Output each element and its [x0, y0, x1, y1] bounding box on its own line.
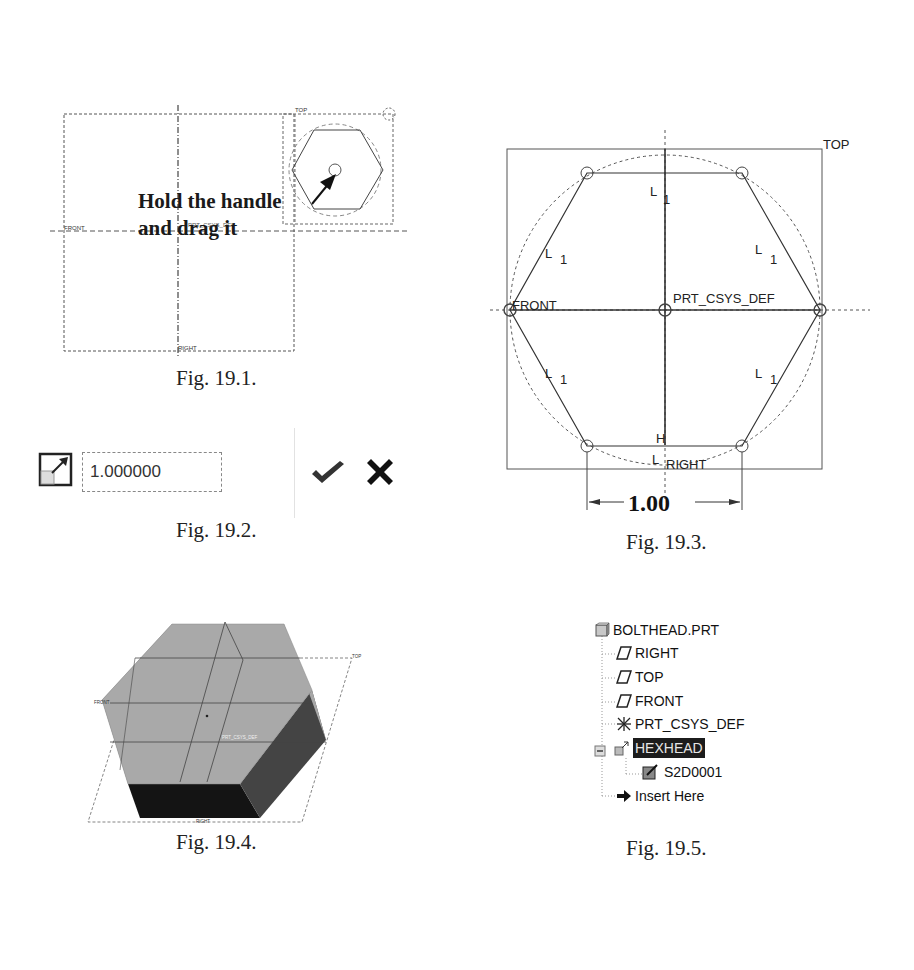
toolbar-separator: [294, 428, 295, 518]
label-top: TOP: [295, 107, 307, 113]
arrow-right-icon: [616, 788, 632, 804]
dimension-value[interactable]: 1.00: [628, 490, 670, 516]
constraint-L-ll: L: [545, 366, 552, 381]
hexhead-3d-model: TOP FRONT RIGHT PRT_CSYS_DEF: [80, 610, 380, 830]
caption-fig-19-3: Fig. 19.3.: [626, 530, 707, 555]
tree-item-s2d0001[interactable]: S2D0001: [642, 762, 722, 782]
constraint-L-ul: L: [545, 246, 552, 261]
tree-item-front[interactable]: FRONT: [616, 691, 683, 711]
datum-plane-icon: [616, 693, 632, 709]
tree-item-label: S2D0001: [664, 762, 722, 782]
callout-line2: and drag it: [138, 216, 237, 240]
tree-item-top[interactable]: TOP: [616, 667, 664, 687]
constraint-L-bottom: L: [652, 452, 659, 467]
label-front: FRONT: [512, 298, 557, 313]
tree-item-label: FRONT: [635, 691, 683, 711]
caption-fig-19-4: Fig. 19.4.: [176, 830, 257, 855]
extrude-icon: [614, 740, 630, 756]
tree-item-label: RIGHT: [635, 643, 679, 663]
hexagon-sketch: L 1 L 1 L 1 L 1 L 1 H L TOP FRONT RIGHT …: [490, 130, 870, 530]
label-csys: PRT_CSYS_DEF: [673, 291, 775, 306]
label-right: RIGHT: [666, 457, 707, 472]
svg-text:1: 1: [663, 192, 670, 207]
figure-19-1: TOP FRONT RIGHT PRT_CSYS_DEF Hold the ha…: [50, 100, 410, 360]
svg-text:1: 1: [770, 252, 777, 267]
caption-fig-19-2: Fig. 19.2.: [176, 518, 257, 543]
close-icon[interactable]: [363, 455, 397, 489]
figure-19-4: TOP FRONT RIGHT PRT_CSYS_DEF: [80, 610, 380, 830]
tree-item-label: BOLTHEAD.PRT: [613, 620, 719, 640]
part-icon: [594, 622, 610, 638]
figure-19-3: L 1 L 1 L 1 L 1 L 1 H L TOP FRONT RIGHT …: [490, 130, 870, 530]
check-icon[interactable]: [310, 458, 346, 488]
datum-plane-icon: [616, 645, 632, 661]
scale-icon[interactable]: [38, 452, 74, 488]
caption-fig-19-5: Fig. 19.5.: [626, 836, 707, 861]
constraint-L-lr: L: [755, 366, 762, 381]
tree-item-bolthead[interactable]: BOLTHEAD.PRT: [594, 620, 719, 640]
label-front: FRONT: [94, 700, 110, 705]
datum-plane-icon: [616, 669, 632, 685]
constraint-L-ur: L: [755, 242, 762, 257]
label-front: FRONT: [64, 225, 85, 231]
label-right: RIGHT: [196, 819, 210, 824]
tree-item-hexhead[interactable]: HEXHEAD: [594, 738, 705, 758]
label-right: RIGHT: [178, 345, 197, 351]
tree-item-label: TOP: [635, 667, 664, 687]
constraint-L-top: L: [650, 184, 657, 199]
constraint-H: H: [656, 431, 665, 446]
tree-item-label: Insert Here: [635, 786, 704, 806]
callout-line1: Hold the handle: [138, 189, 282, 213]
caption-fig-19-1: Fig. 19.1.: [176, 366, 257, 391]
csys-icon: [616, 716, 632, 732]
svg-text:1: 1: [560, 252, 567, 267]
tree-item-label: HEXHEAD: [633, 738, 705, 758]
sketch-icon: [642, 764, 658, 780]
tree-item-label: PRT_CSYS_DEF: [635, 714, 744, 734]
collapse-icon[interactable]: [594, 742, 606, 754]
svg-text:1: 1: [770, 372, 777, 387]
label-top: TOP: [352, 654, 361, 659]
svg-text:1: 1: [560, 372, 567, 387]
label-csys: PRT_CSYS_DEF: [222, 735, 257, 740]
tree-item-right[interactable]: RIGHT: [616, 643, 679, 663]
tree-item-prt-csys-def[interactable]: PRT_CSYS_DEF: [616, 714, 744, 734]
scale-value-input[interactable]: 1.000000: [82, 452, 222, 492]
label-top: TOP: [823, 137, 850, 152]
sketch-canvas-drag: TOP FRONT RIGHT PRT_CSYS_DEF Hold the ha…: [50, 100, 410, 360]
tree-item-insert-here[interactable]: Insert Here: [616, 786, 704, 806]
